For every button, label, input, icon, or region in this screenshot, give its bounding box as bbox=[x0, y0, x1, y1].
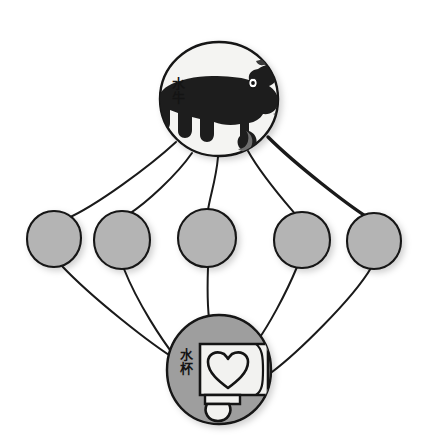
edge-buffalo-to-middle-3 bbox=[208, 157, 218, 210]
edge-buffalo-to-middle-2 bbox=[129, 153, 192, 214]
node-middle-3[interactable] bbox=[178, 209, 236, 267]
diagram-canvas: 水牛 水杯 bbox=[0, 0, 429, 447]
bottom-node-label-holder: 水杯 bbox=[179, 348, 193, 380]
edge-middle-2-to-cup bbox=[124, 269, 176, 358]
edge-buffalo-to-middle-4 bbox=[248, 151, 296, 215]
edge-buffalo-to-middle-5 bbox=[268, 137, 367, 217]
node-water-buffalo-label: 水牛 bbox=[171, 77, 185, 105]
middle-node-group[interactable] bbox=[27, 209, 401, 269]
top-node-label-holder: 水牛 bbox=[171, 77, 185, 109]
node-middle-1[interactable] bbox=[27, 211, 81, 267]
edge-buffalo-to-middle-1 bbox=[66, 142, 176, 219]
node-water-cup-label: 水杯 bbox=[179, 348, 193, 376]
edge-middle-1-to-cup bbox=[61, 265, 177, 360]
network-graph bbox=[0, 0, 429, 447]
node-middle-2[interactable] bbox=[94, 211, 150, 269]
edge-middle-5-to-cup bbox=[272, 268, 371, 372]
node-middle-5[interactable] bbox=[347, 213, 401, 269]
edge-middle-4-to-cup bbox=[258, 267, 297, 340]
node-middle-4[interactable] bbox=[274, 212, 330, 268]
